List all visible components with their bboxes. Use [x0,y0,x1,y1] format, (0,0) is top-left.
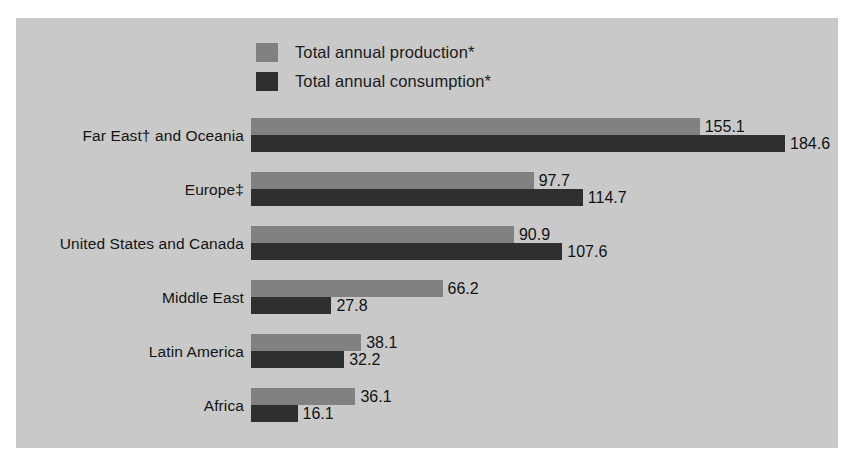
legend-swatch-consumption [256,72,278,91]
bar-consumption [251,405,298,422]
bar-production [251,172,534,189]
category-label: Africa [204,384,244,427]
bar-consumption [251,135,785,152]
chart-category-row: Europe‡97.7114.7 [16,168,838,222]
bar-value-label: 27.8 [331,297,367,315]
chart-category-row: United States and Canada90.9107.6 [16,222,838,276]
bar-value-label: 114.7 [583,189,627,207]
bar-consumption [251,297,331,314]
category-label: United States and Canada [60,222,244,265]
bar-value-label: 107.6 [562,243,607,261]
plot-area: Far East† and Oceania155.1184.6Europe‡97… [16,114,838,438]
bar-consumption [251,351,344,368]
bar-production [251,388,355,405]
chart-category-row: Far East† and Oceania155.1184.6 [16,114,838,168]
chart-category-row: Middle East66.227.8 [16,276,838,330]
bar-production [251,118,700,135]
chart-category-row: Latin America38.132.2 [16,330,838,384]
category-label: Europe‡ [185,168,244,211]
bar-value-label: 66.2 [443,280,479,298]
legend-swatch-production [256,43,278,62]
bar-value-label: 36.1 [355,388,391,406]
category-label: Far East† and Oceania [83,114,245,157]
bar-value-label: 184.6 [785,135,830,153]
chart-category-row: Africa36.116.1 [16,384,838,438]
chart-legend: Total annual production* Total annual co… [256,38,491,96]
legend-label-production: Total annual production* [295,43,474,62]
bar-value-label: 155.1 [700,118,745,136]
bar-value-label: 90.9 [514,226,550,244]
category-label: Middle East [162,276,244,319]
bar-production [251,334,361,351]
bar-production [251,226,514,243]
legend-item-production: Total annual production* [256,38,491,67]
legend-item-consumption: Total annual consumption* [256,67,491,96]
category-label: Latin America [149,330,244,373]
bar-value-label: 16.1 [298,405,334,423]
bar-value-label: 38.1 [361,334,397,352]
bar-production [251,280,443,297]
chart-panel: Total annual production* Total annual co… [16,18,838,448]
legend-label-consumption: Total annual consumption* [295,72,491,91]
bar-consumption [251,189,583,206]
bar-value-label: 32.2 [344,351,380,369]
bar-value-label: 97.7 [534,172,570,190]
bar-consumption [251,243,562,260]
